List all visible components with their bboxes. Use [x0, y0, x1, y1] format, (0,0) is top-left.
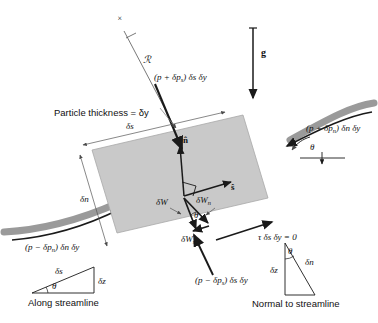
theta-right-label: θ — [310, 143, 314, 152]
unit-tangent-label: ŝ — [231, 183, 235, 192]
curvature-center-mark: × — [117, 15, 122, 23]
pressure-force-right-label: (p + δpn) δn δy — [306, 124, 360, 134]
streamline-lower-left — [4, 203, 120, 240]
normal-triangle-dn-label: δn — [305, 258, 314, 267]
theta-particle-label: θ — [194, 211, 198, 220]
fluid-particle-free-body-diagram: × ℛ g Particle thickness = δy (p + δps) … — [0, 0, 378, 323]
shear-stress-label: τ δs δy = 0 — [258, 233, 297, 242]
normal-triangle-theta-label: θ — [288, 247, 292, 256]
unit-normal-label: n̂ — [183, 136, 188, 145]
along-triangle-ds-label: δs — [55, 267, 63, 276]
gravity-label: g — [261, 48, 266, 58]
edge-length-ds-label: δs — [126, 122, 134, 131]
normal-triangle-dz-label: δz — [270, 266, 278, 275]
fluid-particle-element — [92, 115, 268, 233]
particle-thickness-label: Particle thickness = δy — [54, 108, 149, 118]
pressure-force-bottom-label: (p − δps) δs δy — [195, 276, 248, 286]
theta-angle-right — [292, 137, 345, 164]
along-triangle-dz-label: δz — [98, 277, 106, 286]
weight-normal-label: δWn — [196, 196, 211, 206]
gravity-arrow — [249, 28, 257, 98]
weight-total-label: δW — [156, 198, 168, 207]
pressure-force-top-label: (p + δps) δs δy — [154, 73, 207, 83]
pressure-force-bottom-arrow — [194, 235, 213, 275]
along-streamline-caption: Along streamline — [28, 298, 99, 308]
radius-of-curvature-label: ℛ — [143, 55, 151, 65]
edge-length-dn-label: δn — [80, 195, 89, 204]
along-streamline-triangle — [32, 267, 94, 293]
along-triangle-theta-label: θ — [52, 282, 56, 291]
pressure-force-left-label: (p − δpn) δn δy — [25, 243, 79, 253]
weight-streamwise-label: δWs — [181, 235, 195, 245]
normal-to-streamline-caption: Normal to streamline — [252, 299, 340, 309]
